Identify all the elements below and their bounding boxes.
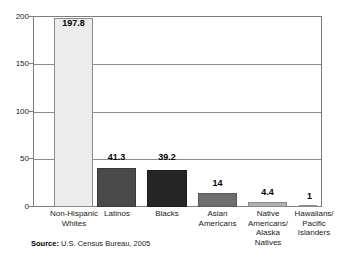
y-tick-label-200: 200: [3, 13, 29, 21]
bars-layer: 197.8 41.3 39.2 14 4.4 1: [33, 16, 322, 207]
bar-value-blacks: 39.2: [147, 153, 187, 162]
source-note: Source: U.S. Census Bureau, 2005: [31, 240, 150, 248]
y-tick-label-100: 100: [3, 108, 29, 116]
y-tick-label-150: 150: [3, 60, 29, 68]
bar-value-asian-americans: 14: [198, 179, 237, 188]
bar-non-hispanic-whites[interactable]: [54, 18, 93, 207]
bar-hawaiians-pacific-islanders[interactable]: [299, 205, 317, 207]
bar-value-non-hispanic-whites: 197.8: [54, 19, 93, 28]
x-label-hawaiians: Hawaiians/ Pacific Islanders: [285, 209, 342, 238]
bar-blacks[interactable]: [147, 170, 187, 207]
x-label-latinos: Latinos: [91, 209, 143, 219]
bar-latinos[interactable]: [97, 168, 136, 207]
bar-native-americans-alaska-natives[interactable]: [248, 202, 287, 207]
y-tick-label-50: 50: [3, 155, 29, 163]
y-tick-label-0: 0: [3, 203, 29, 211]
source-label: Source:: [31, 239, 59, 248]
bar-value-latinos: 41.3: [97, 153, 136, 162]
source-text: U.S. Census Bureau, 2005: [59, 239, 150, 248]
x-axis-labels: Non-Hispanic Whites Latinos Blacks Asian…: [33, 209, 322, 255]
bar-value-hawaiians: 1: [290, 192, 329, 201]
bar-chart-figure: 200 150 100 50 0 197.8 41.3 39.2 14 4.4 …: [0, 0, 342, 260]
bar-value-native-americans: 4.4: [248, 188, 287, 197]
bar-asian-americans[interactable]: [198, 193, 237, 207]
